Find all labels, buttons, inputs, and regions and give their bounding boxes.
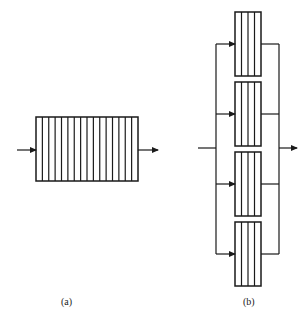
stack-b-2 [235, 82, 261, 146]
stack-b-3 [235, 152, 261, 216]
panel-b-label: (b) [243, 296, 255, 307]
stack-a [36, 117, 138, 181]
stack-b-1 [235, 12, 261, 76]
panel-b-parallel-stacks [198, 12, 297, 286]
stack-b-4 [235, 222, 261, 286]
panel-a-label: (a) [61, 296, 72, 307]
panel-a-single-stack [17, 117, 158, 181]
diagram-canvas [0, 0, 303, 316]
